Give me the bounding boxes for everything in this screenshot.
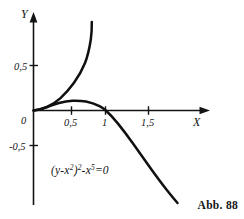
figure-container: Y X 0 0,5 -0,5 0,5 1 1,5 (y-x2)2-x5=0 Ab…	[0, 0, 244, 219]
curve-upper-branch	[34, 22, 92, 111]
y-axis-label: Y	[21, 7, 29, 21]
x-axis-label: X	[192, 115, 201, 129]
y-tick-label-neg0.5: -0,5	[9, 141, 26, 152]
y-axis-arrowhead	[30, 12, 38, 23]
x-tick-label-1: 1	[102, 117, 107, 128]
equation-annotation: (y-x2)2-x5=0	[51, 163, 109, 177]
equation-part1: (y-x	[51, 164, 70, 177]
x-axis-arrowhead	[200, 107, 211, 114]
plot-svg: Y X 0 0,5 -0,5 0,5 1 1,5 (y-x2)2-x5=0	[0, 0, 244, 219]
y-tick-label-0.5: 0,5	[14, 61, 27, 72]
origin-label: 0	[21, 115, 27, 126]
equation-part4: =0	[95, 164, 109, 176]
curve-lower-branch	[34, 101, 178, 203]
x-tick-label-0.5: 0,5	[64, 117, 77, 128]
x-tick-label-1.5: 1,5	[141, 117, 154, 128]
figure-caption: Abb. 88	[198, 199, 238, 211]
